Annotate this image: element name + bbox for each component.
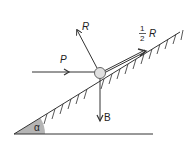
weight-label: B	[104, 112, 111, 123]
angle-label: α	[34, 122, 40, 133]
friction-force-label: R	[149, 28, 156, 39]
friction-fraction-numerator: 1	[140, 24, 145, 33]
friction-fraction-denominator: 2	[140, 34, 145, 43]
incline-line	[14, 32, 180, 134]
normal-force-label: R	[82, 21, 89, 32]
incline-hatching	[44, 30, 183, 124]
body-ball	[95, 68, 106, 79]
normal-force-arrow	[77, 30, 97, 68]
friction-force-arrow	[103, 49, 146, 74]
push-force-label: P	[60, 54, 67, 65]
force-diagram: P R 1 2 R B α	[0, 0, 193, 143]
